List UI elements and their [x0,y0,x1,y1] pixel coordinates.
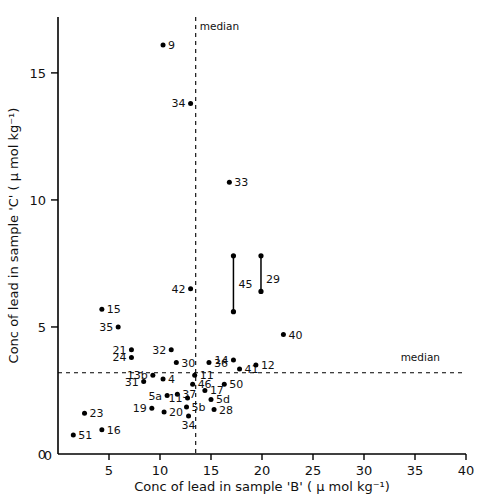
point-19 [149,406,154,411]
point-label-31: 31 [125,376,139,389]
point-28 [212,407,217,412]
point-label-24: 24 [112,351,126,364]
point-15 [99,307,104,312]
point-45-low [231,309,236,314]
median-vertical-label: median [200,20,239,32]
x-tick-label-35: 35 [407,463,424,478]
point-14 [231,357,236,362]
point-20 [162,410,167,415]
point-label-12: 12 [261,359,275,372]
x-tick-label-40: 40 [458,463,475,478]
point-31 [141,379,146,384]
median-horizontal-label: median [401,351,440,363]
point-label-28: 28 [219,404,233,417]
x-tick-label-5: 5 [105,463,113,478]
point-label-19: 19 [133,402,147,415]
point-label-20: 20 [169,406,183,419]
point-label-23: 23 [90,407,104,420]
point-5b [184,404,189,409]
point-9 [161,42,166,47]
point-label-29: 29 [266,273,280,286]
point-17 [202,388,207,393]
x-axis-title: Conc of lead in sample 'B' ( μ mol kg⁻¹) [134,479,390,494]
point-21 [129,347,134,352]
point-23 [82,411,87,416]
point-label-34b: 34 [182,419,196,432]
point-label-33: 33 [234,176,248,189]
point-label-42: 42 [172,283,186,296]
point-label-51: 51 [78,429,92,442]
y-tick-label-5: 5 [38,320,46,335]
point-label-40: 40 [288,329,302,342]
point-11b [185,396,190,401]
point-33 [227,180,232,185]
y-tick-label-10: 10 [29,193,46,208]
point-40 [281,332,286,337]
point-label-15: 15 [107,303,121,316]
point-36 [206,360,211,365]
point-34 [188,101,193,106]
x-tick-label-10: 10 [152,463,169,478]
y-tick-label-15: 15 [29,66,46,81]
point-label-5a: 5a [148,390,162,403]
point-label-35: 35 [99,321,113,334]
point-label-14: 14 [214,354,228,367]
point-46 [190,382,195,387]
point-11 [192,373,197,378]
point-45-high [231,253,236,258]
y-tick-label-0: 0 [38,447,46,462]
point-label-9: 9 [168,39,175,52]
plot-canvas: 0510152025303540051015medianmedian934334… [0,0,502,503]
point-29-high [258,253,263,258]
point-label-50: 50 [229,378,243,391]
point-5d [209,397,214,402]
x-tick-label-30: 30 [356,463,373,478]
x-tick-label-25: 25 [305,463,322,478]
point-label-30: 30 [181,357,195,370]
point-51 [71,432,76,437]
point-42 [188,286,193,291]
point-label-11b: 11 [169,392,183,405]
point-35 [116,324,121,329]
point-16 [99,427,104,432]
point-label-34: 34 [172,97,186,110]
y-axis-title: Conc of lead in sample 'C' ( μ mol kg⁻¹) [6,108,21,364]
point-32 [169,347,174,352]
point-label-5b: 5b [192,401,206,414]
point-label-45: 45 [238,278,252,291]
point-12 [253,363,258,368]
point-34b [186,413,191,418]
point-label-16: 16 [107,424,121,437]
point-label-4: 4 [168,373,175,386]
point-41 [237,366,242,371]
point-13b [150,373,155,378]
x-tick-label-20: 20 [254,463,271,478]
point-4 [161,377,166,382]
point-29-low [258,289,263,294]
point-30 [174,360,179,365]
point-24 [129,355,134,360]
point-label-32: 32 [152,344,166,357]
x-tick-label-15: 15 [203,463,220,478]
scatter-plot-figure: 0510152025303540051015medianmedian934334… [0,0,502,503]
